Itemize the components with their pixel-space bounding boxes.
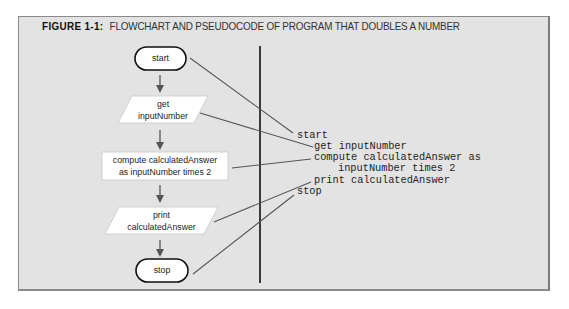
diagram-canvas	[0, 0, 569, 309]
pseudocode-line-compute-cont: inputNumber times 2	[338, 163, 455, 174]
stop-terminal-label: stop	[137, 264, 186, 276]
output-label: print calculatedAnswer	[108, 209, 215, 233]
output-label-line-1: print	[108, 209, 215, 221]
pseudocode-line-stop: stop	[297, 186, 322, 197]
input-label: get inputNumber	[120, 98, 206, 122]
input-label-line-2: inputNumber	[120, 110, 206, 122]
pseudocode-line-print: print calculatedAnswer	[314, 175, 450, 186]
process-label-line-2: as inputNumber times 2	[105, 166, 225, 178]
connector-compute	[232, 159, 311, 168]
input-label-line-1: get	[120, 98, 206, 110]
start-terminal-label: start	[136, 52, 184, 64]
process-label: compute calculatedAnswer as inputNumber …	[105, 154, 225, 178]
output-label-line-2: calculatedAnswer	[108, 221, 215, 233]
process-label-line-1: compute calculatedAnswer	[105, 154, 225, 166]
